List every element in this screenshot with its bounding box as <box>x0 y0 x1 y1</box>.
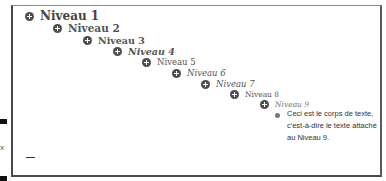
cursor-dash <box>26 157 35 158</box>
margin-marker-top <box>0 119 7 124</box>
expand-plus-icon[interactable] <box>142 58 151 67</box>
outline-level-8[interactable]: Niveau 8 <box>230 90 279 99</box>
outline-level-4[interactable]: Niveau 4 <box>113 46 175 57</box>
level-label: Niveau 4 <box>128 46 175 57</box>
expand-plus-icon[interactable] <box>201 80 210 89</box>
outline-level-5[interactable]: Niveau 5 <box>142 57 196 67</box>
margin-marker-bottom <box>0 176 7 181</box>
expand-plus-icon[interactable] <box>230 90 239 99</box>
level-label: Niveau 8 <box>245 90 279 99</box>
level-label: Niveau 6 <box>187 68 226 78</box>
outline-level-2[interactable]: Niveau 2 <box>53 22 120 34</box>
level-label: Niveau 5 <box>157 57 196 67</box>
expand-plus-icon[interactable] <box>113 47 122 56</box>
expand-plus-icon[interactable] <box>172 69 181 78</box>
level-label: Niveau 3 <box>98 35 145 46</box>
expand-plus-icon[interactable] <box>83 36 92 45</box>
expand-plus-icon[interactable] <box>53 24 62 33</box>
margin-mark: x <box>0 143 4 152</box>
outline-level-3[interactable]: Niveau 3 <box>83 35 145 46</box>
outline-level-6[interactable]: Niveau 6 <box>172 68 226 78</box>
level-label: Niveau 7 <box>216 79 255 89</box>
body-text-bullet-icon <box>275 113 280 118</box>
expand-plus-icon[interactable] <box>25 12 34 21</box>
outline-level-7[interactable]: Niveau 7 <box>201 79 255 89</box>
outline-level-1[interactable]: Niveau 1 <box>25 9 99 23</box>
level-label: Niveau 2 <box>68 22 120 34</box>
body-text[interactable]: Ceci est le corps de texte, c'est-à-dire… <box>287 108 382 144</box>
expand-plus-icon[interactable] <box>260 100 269 109</box>
level-label: Niveau 1 <box>40 9 99 23</box>
